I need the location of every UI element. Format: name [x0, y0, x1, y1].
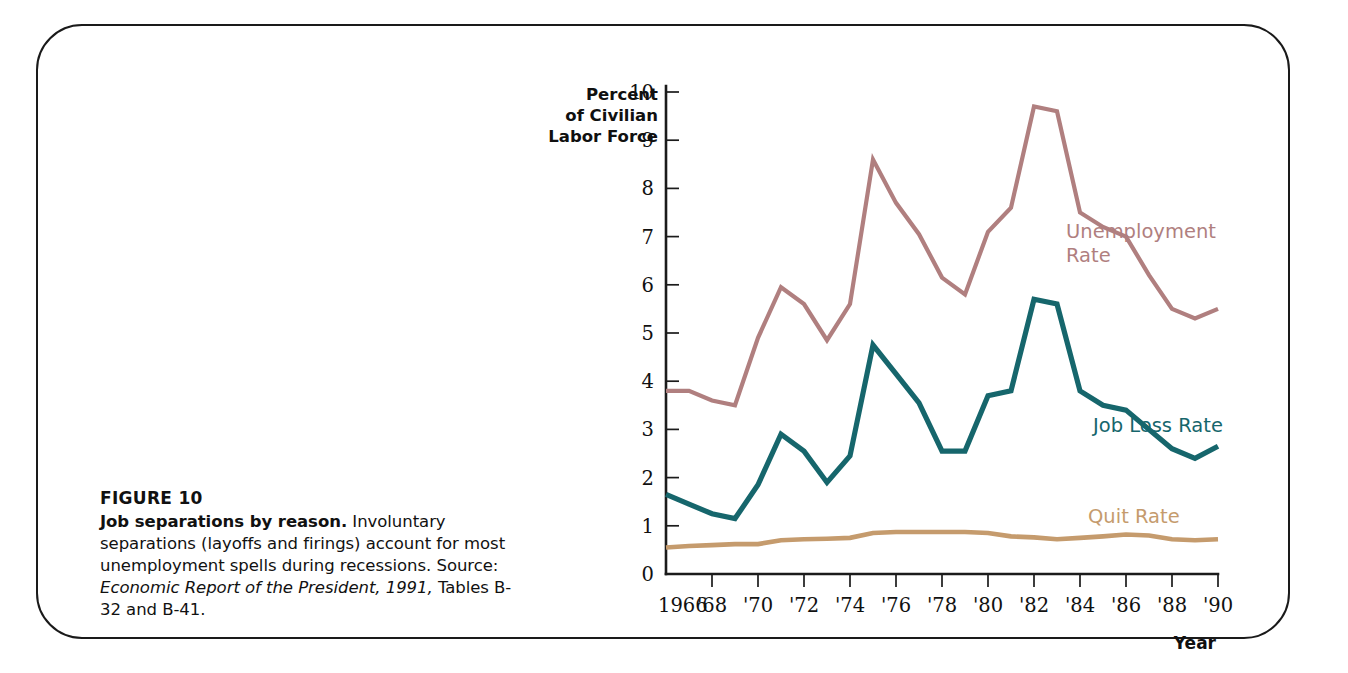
source-title-part-1: Economic Report of the	[100, 578, 293, 597]
y-tick-label: 1	[642, 515, 654, 538]
x-tick-label: '82	[1019, 594, 1049, 617]
data-series-group	[666, 106, 1218, 547]
y-tick-label: 3	[642, 418, 654, 441]
y-tick-label: 7	[642, 226, 654, 249]
series-label-job-loss: Job Loss Rate	[1091, 414, 1223, 437]
y-axis-caption-line-2: of Civilian	[565, 106, 658, 125]
y-tick-label: 6	[642, 274, 654, 297]
x-tick-label: '70	[743, 594, 773, 617]
series-label-unemployment-line-2: Rate	[1066, 244, 1111, 267]
y-tick-label: 4	[642, 370, 654, 393]
line-chart: Percent of Civilian Labor Force 10987654…	[558, 66, 1298, 626]
x-tick-label: '86	[1111, 594, 1141, 617]
caption-body-1: Involuntary	[352, 512, 445, 531]
y-axis: 109876543210	[629, 81, 679, 586]
y-tick-label: 8	[642, 177, 654, 200]
series-line-job-loss-rate	[666, 299, 1218, 518]
x-tick-label: '84	[1065, 594, 1095, 617]
caption-body-2: separations (layoffs and firings) accoun…	[100, 534, 431, 553]
x-tick-label: '80	[973, 594, 1003, 617]
y-tick-label: 10	[629, 81, 654, 104]
y-tick-label: 5	[642, 322, 654, 345]
x-tick-label: '76	[881, 594, 911, 617]
caption-lead: Job separations by reason.	[100, 512, 347, 531]
source-label: Source:	[436, 556, 498, 575]
source-title-part-2: President, 1991,	[298, 578, 433, 597]
x-tick-label: '72	[789, 594, 819, 617]
y-tick-label: 2	[642, 467, 654, 490]
figure-frame: FIGURE 10 Job separations by reason. Inv…	[36, 24, 1290, 639]
series-line-unemployment-rate	[666, 106, 1218, 405]
x-axis-title: Year	[1173, 633, 1217, 653]
x-tick-label: '88	[1157, 594, 1187, 617]
caption-body-4: recessions.	[340, 556, 431, 575]
x-axis: 1966'68'70'72'74'76'78'80'82'84'86'88'90	[658, 574, 1233, 617]
chart-plot-area: Percent of Civilian Labor Force 10987654…	[558, 66, 1298, 626]
figure-caption: FIGURE 10 Job separations by reason. Inv…	[100, 487, 530, 621]
figure-number: FIGURE 10	[100, 487, 530, 510]
series-line-quit-rate	[666, 532, 1218, 547]
series-label-quit: Quit Rate	[1088, 505, 1180, 528]
series-label-unemployment-line-1: Unemployment	[1066, 220, 1216, 243]
y-tick-label: 0	[642, 563, 654, 586]
x-tick-label: '78	[927, 594, 957, 617]
x-tick-label: '90	[1203, 594, 1233, 617]
y-tick-label: 9	[642, 129, 654, 152]
x-tick-label: '74	[835, 594, 865, 617]
x-tick-label: '68	[697, 594, 727, 617]
